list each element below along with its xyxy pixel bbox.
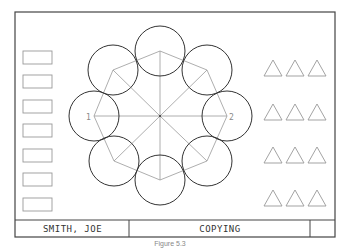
- title-block-title: COPYING: [130, 221, 310, 237]
- triangle-shape: [308, 190, 326, 206]
- triangle-shape: [308, 60, 326, 76]
- spoke-line: [160, 116, 207, 161]
- figure-caption: Figure 5.3: [140, 240, 200, 247]
- triangle-shape: [308, 104, 326, 120]
- triangle-shape: [264, 190, 282, 206]
- title-block-name: SMITH, JOE: [16, 221, 129, 237]
- rectangle-shape: [23, 198, 52, 211]
- triangle-shape: [286, 190, 304, 206]
- rectangle-shape: [23, 173, 52, 186]
- spoke-line: [113, 70, 160, 116]
- rectangle-shape: [23, 75, 52, 88]
- triangle-shape: [286, 104, 304, 120]
- triangle-shape: [308, 147, 326, 163]
- diagram-canvas: 12: [0, 0, 343, 249]
- sheet-border: [15, 12, 335, 237]
- label-2: 2: [229, 113, 234, 122]
- rectangle-shape: [23, 51, 52, 64]
- rectangle-shape: [23, 149, 52, 162]
- drawing-sheet: 12 SMITH, JOE COPYING Figure 5.3: [0, 0, 343, 249]
- rectangle-shape: [23, 124, 52, 137]
- triangle-shape: [286, 147, 304, 163]
- center-point: [159, 115, 161, 117]
- triangle-shape: [264, 104, 282, 120]
- spoke-line: [114, 116, 160, 161]
- triangle-shape: [286, 60, 304, 76]
- triangle-shape: [264, 60, 282, 76]
- triangle-shape: [264, 147, 282, 163]
- label-1: 1: [86, 113, 91, 122]
- rectangle-shape: [23, 100, 52, 113]
- spoke-line: [160, 70, 207, 116]
